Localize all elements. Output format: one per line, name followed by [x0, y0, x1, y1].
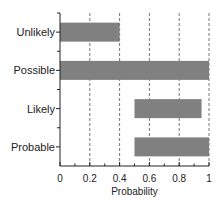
bar-possible — [60, 61, 209, 80]
x-tick-label: 0 — [57, 173, 63, 184]
x-tick-label: 0.8 — [172, 173, 186, 184]
category-label: Unlikely — [16, 26, 55, 38]
x-axis-label: Probability — [111, 186, 158, 197]
x-tick-label: 0.2 — [83, 173, 97, 184]
category-label: Possible — [13, 64, 55, 76]
chart: UnlikelyPossibleLikelyProbable00.20.40.6… — [0, 0, 222, 204]
bar-unlikely — [60, 23, 120, 42]
category-label: Probable — [11, 141, 55, 153]
x-tick-label: 0.4 — [113, 173, 127, 184]
bar-likely — [135, 99, 202, 118]
x-tick-label: 1 — [206, 173, 212, 184]
bars — [60, 23, 209, 157]
bar-probable — [135, 137, 210, 156]
category-label: Likely — [27, 103, 56, 115]
x-tick-label: 0.6 — [142, 173, 156, 184]
